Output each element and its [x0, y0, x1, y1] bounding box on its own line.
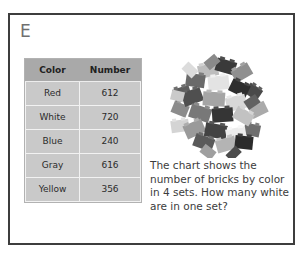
column-header-number: Number	[80, 60, 141, 82]
table-row: Red 612	[26, 82, 141, 106]
problem-card: E Color Number Red 612 White 720	[8, 13, 295, 245]
bricks-by-color-table: Color Number Red 612 White 720 Blue 240	[25, 59, 141, 202]
problem-letter: E	[20, 23, 31, 40]
brick-pile-photo	[156, 48, 276, 158]
table-body: Red 612 White 720 Blue 240 Gray 616 Yell…	[26, 82, 141, 202]
cell-color: Blue	[26, 130, 80, 154]
cell-number: 616	[80, 154, 141, 178]
question-line: are in one set?	[150, 200, 294, 214]
question-line: The chart shows the	[150, 159, 294, 173]
cell-color: Gray	[26, 154, 80, 178]
question-text: The chart shows the number of bricks by …	[150, 159, 294, 213]
cell-color: Yellow	[26, 178, 80, 202]
cell-color: Red	[26, 82, 80, 106]
table-row: Yellow 356	[26, 178, 141, 202]
cell-number: 240	[80, 130, 141, 154]
column-header-color: Color	[26, 60, 80, 82]
cell-number: 720	[80, 106, 141, 130]
table-row: White 720	[26, 106, 141, 130]
table-row: Gray 616	[26, 154, 141, 178]
table-row: Blue 240	[26, 130, 141, 154]
question-line: in 4 sets. How many white	[150, 186, 294, 200]
cell-color: White	[26, 106, 80, 130]
screenshot-root: E Color Number Red 612 White 720	[0, 0, 306, 257]
table-header: Color Number	[26, 60, 141, 82]
cell-number: 612	[80, 82, 141, 106]
table-header-row: Color Number	[26, 60, 141, 82]
question-line: number of bricks by color	[150, 173, 294, 187]
cell-number: 356	[80, 178, 141, 202]
